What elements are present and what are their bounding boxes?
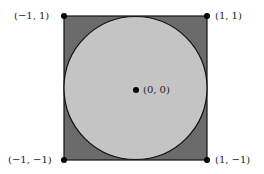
point-top-right xyxy=(204,13,210,19)
label-bottom-right: (1, −1) xyxy=(215,154,250,165)
point-bottom-left xyxy=(61,157,67,163)
unit-circle-diagram: (−1, 1) (1, 1) (−1, −1) (1, −1) (0, 0) xyxy=(0,0,264,174)
point-bottom-right xyxy=(204,157,210,163)
point-center xyxy=(133,87,139,93)
label-bottom-left: (−1, −1) xyxy=(8,154,52,165)
point-top-left xyxy=(61,13,67,19)
label-top-right: (1, 1) xyxy=(215,10,242,21)
label-center: (0, 0) xyxy=(143,84,170,95)
label-top-left: (−1, 1) xyxy=(14,10,49,21)
